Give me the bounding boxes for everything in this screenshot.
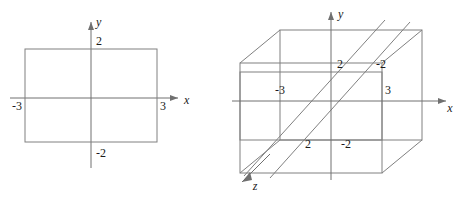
- x-max-tick-label: 3: [160, 99, 166, 113]
- x-axis-arrowhead: [170, 95, 178, 101]
- cross-section-rectangle: [240, 72, 382, 140]
- box-edge-top-left: [240, 30, 280, 63]
- space-diagram-svg: x y z -3 3 2 -2 2 -2: [230, 0, 461, 201]
- x-axis-label: x: [446, 101, 453, 115]
- plane-diagram-svg: x y -3 3 2 -2: [0, 0, 230, 201]
- plane-diagram-panel: x y -3 3 2 -2: [0, 0, 230, 201]
- y-axis-arrowhead: [328, 12, 334, 20]
- z-axis-label: z: [252, 179, 258, 193]
- y-axis-arrowhead: [88, 22, 94, 30]
- space-diagram-panel: x y z -3 3 2 -2 2 -2: [230, 0, 461, 201]
- x-axis-label: x: [183, 93, 190, 107]
- box-back-face: [280, 30, 422, 140]
- x-min-tick-label: -3: [275, 83, 285, 97]
- figure-root: x y -3 3 2 -2: [0, 0, 461, 201]
- box-edge-bottom-right: [382, 140, 422, 173]
- z-guide-line-lower: [270, 22, 410, 178]
- y-axis-label: y: [95, 15, 102, 29]
- y-top-back-tick-label: -2: [376, 57, 386, 71]
- y-bottom-front-tick-label: 2: [305, 137, 311, 151]
- y-top-front-tick-label: 2: [337, 57, 343, 71]
- x-axis-arrowhead: [438, 98, 446, 104]
- y-bottom-back-tick-label: -2: [341, 137, 351, 151]
- y-min-tick-label: -2: [96, 146, 106, 160]
- z-guide-line-upper: [244, 20, 385, 176]
- y-max-tick-label: 2: [96, 34, 102, 48]
- x-min-tick-label: -3: [12, 99, 22, 113]
- x-max-tick-label: 3: [385, 83, 391, 97]
- y-axis-label: y: [337, 7, 344, 21]
- box-edge-bottom-left: [240, 140, 280, 173]
